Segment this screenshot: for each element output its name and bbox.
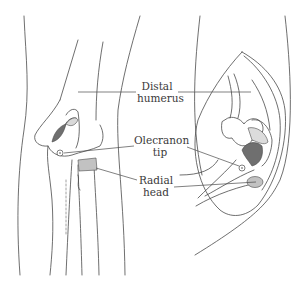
right-olecranon-shade-dark: [242, 143, 263, 166]
elbow-anatomy-figure: Distal humerus Olecranon tip Radial head: [0, 0, 306, 281]
leader-olecranon-right: [187, 147, 239, 166]
label-radial-head: Radial head: [137, 174, 175, 198]
right-incision-outline: [195, 52, 286, 215]
label-distal-humerus: Distal humerus: [137, 80, 177, 104]
right-ulna-shaft: [198, 160, 236, 198]
label-distal-humerus-line1: Distal: [137, 80, 177, 92]
left-radius-right: [94, 165, 99, 275]
right-tendon-a: [228, 76, 232, 118]
label-radial-head-line1: Radial: [137, 174, 175, 186]
right-arm-outline-right: [195, 16, 290, 255]
leader-olecranon-left: [64, 146, 134, 153]
left-radius-notch: [78, 175, 80, 190]
left-humerus-condyle: [35, 100, 103, 156]
left-olecranon-fossa: [66, 109, 79, 148]
right-forearm-line-b: [205, 170, 254, 196]
label-radial-head-line2: head: [137, 186, 175, 198]
right-incision-inner: [244, 56, 280, 190]
label-olecranon-tip-line1: Olecranon: [134, 134, 186, 146]
label-olecranon-tip: Olecranon tip: [134, 134, 186, 158]
left-ulna-outline: [47, 146, 52, 275]
leader-radial-head-left: [96, 168, 137, 180]
right-tendon-b: [234, 74, 240, 118]
left-arm-outline-left: [18, 16, 27, 275]
left-radial-head: [78, 158, 97, 171]
label-olecranon-tip-line2: tip: [134, 146, 186, 158]
left-ulna-right: [66, 160, 72, 275]
left-trochlea-shade-dark: [52, 124, 66, 142]
left-trochlea-shade-light: [66, 118, 78, 126]
label-distal-humerus-line2: humerus: [137, 92, 177, 104]
right-skin-fold: [180, 160, 218, 175]
left-inner-line-b: [96, 42, 103, 120]
left-inner-line-a: [60, 40, 78, 100]
